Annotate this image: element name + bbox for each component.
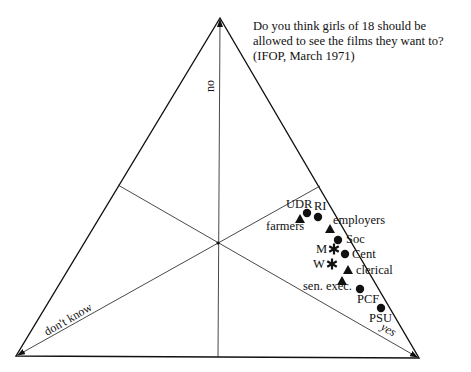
point-label: sen. exec.: [303, 279, 352, 293]
asterisk-marker-w: [327, 259, 337, 270]
circle-marker-cent: [341, 250, 349, 258]
axis-label-no: no: [203, 80, 217, 92]
point-label: PCF: [357, 292, 379, 306]
point-label: RI: [314, 199, 327, 213]
point-label: Cent: [352, 247, 376, 261]
point-label: W: [313, 257, 325, 271]
title-line-2: allowed to see the films they want to?: [253, 34, 465, 49]
point-label: employers: [333, 213, 385, 227]
point-label: PSU: [369, 311, 392, 325]
axis-label-dont-know: don't know: [42, 300, 95, 339]
point-label: M: [316, 242, 327, 256]
no-axis-arrow: [218, 20, 220, 357]
title-line-1: Do you think girls of 18 should be: [253, 19, 465, 34]
point-label: UDR: [286, 197, 313, 211]
data-points: UDRfarmersRIemployersSocMCentWclericalse…: [266, 197, 393, 325]
triangle-marker-clerical: [343, 265, 353, 274]
point-label: Soc: [346, 232, 365, 246]
point-label: clerical: [356, 263, 393, 277]
chart-title: Do you think girls of 18 should be allow…: [253, 19, 465, 64]
circle-marker-soc: [334, 236, 342, 244]
title-line-3: (IFOP, March 1971): [253, 49, 465, 64]
asterisk-marker-m: [329, 244, 339, 255]
centroid: [216, 241, 219, 244]
point-label: farmers: [266, 219, 304, 233]
circle-marker-ri: [314, 213, 322, 221]
